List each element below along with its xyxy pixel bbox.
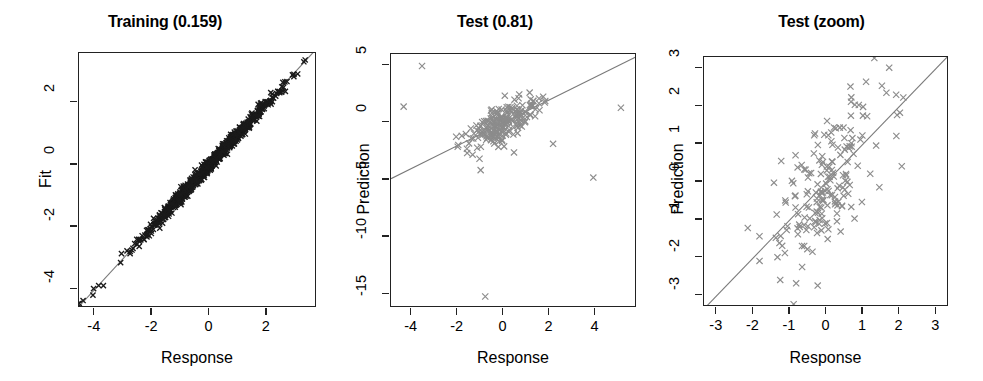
data-point-marker — [802, 214, 808, 220]
data-point-marker — [792, 152, 798, 158]
data-point-marker — [519, 102, 525, 108]
x-tick-mark — [788, 307, 789, 314]
y-tick-label: -3 — [666, 277, 682, 311]
x-axis-label-training: Response — [78, 349, 316, 367]
y-axis-label-test-zoom: Prediction — [669, 119, 687, 239]
x-tick-label: 0 — [204, 318, 212, 334]
data-point-marker — [825, 226, 831, 232]
y-tick-mark — [695, 180, 702, 181]
panel-title-test-zoom: Test (zoom) — [660, 13, 983, 31]
data-point-marker — [476, 156, 482, 162]
data-point-marker — [825, 236, 831, 242]
data-point-marker — [453, 134, 459, 140]
data-point-marker — [842, 187, 848, 193]
data-point-marker — [841, 135, 847, 141]
x-tick-mark — [265, 308, 266, 315]
plot-area-training — [78, 52, 316, 307]
data-point-group — [401, 63, 624, 300]
x-tick-label: 2 — [895, 317, 903, 333]
data-point-marker — [894, 112, 900, 118]
y-tick-mark — [382, 235, 389, 236]
x-tick-label: -2 — [145, 318, 158, 334]
data-point-marker — [502, 93, 508, 99]
data-point-marker — [745, 225, 751, 231]
data-point-marker — [883, 90, 889, 96]
scatter-plot-figure: Training (0.159)-4-202-4-202ResponseFitT… — [0, 0, 983, 381]
data-point-marker — [792, 192, 798, 198]
data-point-marker — [96, 283, 101, 288]
data-point-marker — [823, 181, 829, 187]
data-point-marker — [893, 92, 899, 98]
data-point-marker — [819, 153, 825, 159]
data-point-marker — [893, 133, 899, 139]
y-tick-label: 2 — [41, 84, 57, 118]
data-point-marker — [774, 254, 780, 260]
data-point-marker — [876, 184, 882, 190]
data-point-marker — [478, 167, 484, 173]
y-tick-mark — [70, 288, 77, 289]
y-tick-label: -4 — [41, 270, 57, 304]
panel-title-training: Training (0.159) — [0, 13, 330, 31]
y-axis-label-training: Fit — [37, 119, 55, 239]
data-point-marker — [470, 152, 476, 158]
data-point-marker — [793, 280, 799, 286]
x-tick-mark — [150, 308, 151, 315]
x-tick-mark — [502, 308, 503, 315]
data-point-marker — [90, 292, 95, 297]
data-point-marker — [821, 132, 827, 138]
data-point-marker — [482, 293, 488, 299]
data-point-marker — [851, 215, 857, 221]
scatter-canvas-test — [391, 54, 636, 307]
data-point-marker — [848, 204, 854, 210]
data-point-marker — [527, 90, 533, 96]
y-tick-mark — [695, 294, 702, 295]
data-point-marker — [618, 105, 624, 111]
data-point-marker — [848, 113, 854, 119]
x-tick-label: 2 — [545, 318, 553, 334]
data-point-marker — [815, 283, 821, 289]
y-tick-label: -15 — [353, 275, 369, 309]
data-point-marker — [791, 301, 797, 306]
data-point-marker — [101, 283, 106, 288]
x-tick-mark — [594, 308, 595, 315]
data-point-marker — [838, 229, 844, 235]
data-point-marker — [814, 181, 820, 187]
y-tick-mark — [695, 218, 702, 219]
panel-test-zoom: Test (zoom)-3-2-10123-3-2-10123ResponseP… — [660, 0, 983, 381]
data-point-marker — [119, 251, 124, 256]
y-axis-label-test: Prediction — [355, 119, 373, 239]
x-tick-label: -1 — [782, 317, 795, 333]
x-tick-mark — [861, 307, 862, 314]
data-point-marker — [789, 178, 795, 184]
data-point-marker — [774, 211, 780, 217]
data-point-marker — [850, 151, 856, 157]
data-point-marker — [859, 199, 865, 205]
data-point-marker — [401, 104, 407, 110]
data-point-marker — [824, 202, 830, 208]
data-point-marker — [590, 174, 596, 180]
data-point-marker — [824, 118, 830, 124]
x-axis-label-test-zoom: Response — [703, 349, 948, 367]
data-point-marker — [815, 142, 821, 148]
x-tick-label: -2 — [746, 317, 759, 333]
x-tick-label: 0 — [499, 318, 507, 334]
panel-training: Training (0.159)-4-202-4-202ResponseFit — [0, 0, 330, 381]
data-point-marker — [848, 127, 854, 133]
data-point-marker — [834, 210, 840, 216]
plot-area-test — [390, 53, 636, 307]
scatter-canvas-test-zoom — [704, 57, 948, 306]
data-point-marker — [777, 277, 783, 283]
data-point-marker — [550, 141, 556, 147]
data-point-marker — [464, 150, 470, 156]
data-point-marker — [532, 113, 538, 119]
data-point-marker — [799, 264, 805, 270]
y-tick-label: 5 — [353, 46, 369, 80]
x-tick-label: -4 — [404, 318, 417, 334]
data-point-marker — [756, 233, 762, 239]
data-point-marker — [837, 152, 843, 158]
x-tick-mark — [93, 308, 94, 315]
panel-test: Test (0.81)-4-2024-15-10-505ResponsePred… — [330, 0, 660, 381]
y-tick-mark — [70, 225, 77, 226]
y-tick-mark — [695, 105, 702, 106]
data-point-marker — [900, 94, 906, 100]
